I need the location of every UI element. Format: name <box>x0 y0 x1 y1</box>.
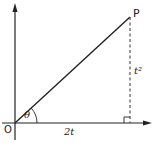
right-angle-marker <box>124 117 130 123</box>
angle-arc <box>31 108 37 123</box>
label-p: P <box>133 8 140 19</box>
y-axis-arrow-icon <box>13 3 18 12</box>
label-2t: 2t <box>64 127 74 137</box>
line-op <box>15 17 130 123</box>
x-axis-arrow-icon <box>143 121 152 126</box>
triangle-diagram <box>0 0 153 144</box>
label-origin: O <box>4 125 12 135</box>
label-theta: θ <box>24 110 30 120</box>
label-t-squared: t² <box>134 66 142 76</box>
